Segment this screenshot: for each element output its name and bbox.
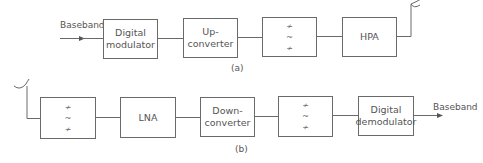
caption-b: (b) [235, 144, 248, 154]
digital-demodulator-label: Digital demodulator [356, 104, 417, 128]
hpa-label: HPA [360, 31, 379, 43]
filter-symbol-mid: ~ [65, 113, 72, 124]
filter-symbol-top: ≁ [302, 100, 309, 111]
bandpass-filter-block-rx: ≁ ~ ≁ [40, 97, 96, 139]
caption-a: (a) [231, 63, 244, 73]
down-converter-block: Down- converter [200, 97, 255, 137]
filter-symbol-bottom: ≁ [286, 43, 293, 54]
lna-label: LNA [139, 112, 158, 124]
lna-block: LNA [120, 97, 176, 138]
filter-symbol-mid: ~ [302, 111, 309, 122]
up-converter-label: Up- converter [188, 26, 234, 50]
digital-modulator-block: Digital modulator [103, 19, 158, 59]
filter-symbol-top: ≁ [286, 21, 293, 32]
filter-symbol-top: ≁ [65, 102, 72, 113]
up-converter-block: Up- converter [183, 18, 238, 58]
filter-symbol-bottom: ≁ [302, 122, 309, 133]
digital-demodulator-block: Digital demodulator [358, 96, 414, 136]
filter-symbol-bottom: ≁ [65, 124, 72, 135]
hpa-block: HPA [342, 17, 397, 57]
digital-modulator-label: Digital modulator [106, 27, 155, 51]
baseband-input-label: Baseband [60, 20, 105, 30]
down-converter-label: Down- converter [205, 105, 251, 129]
bandpass-filter-block: ≁ ~ ≁ [262, 17, 317, 57]
filter-symbol-mid: ~ [286, 32, 293, 43]
bandpass-filter-block-rx-2: ≁ ~ ≁ [278, 96, 333, 137]
baseband-output-label: Baseband [433, 102, 478, 112]
